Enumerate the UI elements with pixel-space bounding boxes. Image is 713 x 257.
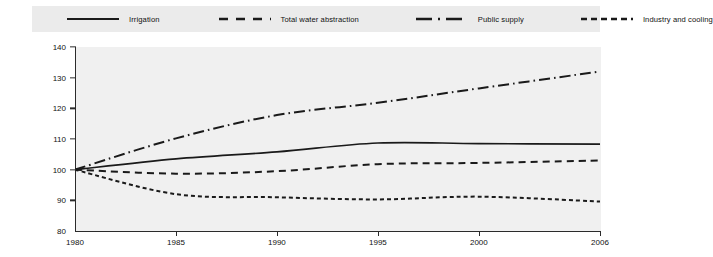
dashdot-line-swatch (415, 14, 469, 24)
y-axis-tick-mark (70, 46, 76, 47)
y-axis-tick-mark (70, 138, 76, 139)
x-axis-tick-mark (600, 231, 601, 236)
y-axis-tick-mark (70, 200, 76, 201)
x-axis-tick-label: 1985 (167, 238, 185, 247)
y-axis-tick-label: 90 (38, 196, 66, 205)
legend-label-public-supply: Public supply (478, 15, 524, 24)
series-line-industry-and-cooling (75, 170, 600, 202)
plot-lines (75, 47, 600, 231)
y-axis-tick-label: 120 (38, 104, 66, 113)
finedash-line-swatch (580, 14, 634, 24)
x-axis-tick-label: 1995 (369, 238, 387, 247)
legend-label-total-water-abstraction: Total water abstraction (281, 15, 359, 24)
x-axis-tick-label: 1980 (66, 238, 84, 247)
y-axis-tick-mark (70, 169, 76, 170)
x-axis-tick-mark (277, 231, 278, 236)
legend-item-irrigation: Irrigation (66, 6, 160, 32)
series-line-total-water-abstraction (75, 160, 600, 173)
series-line-public-supply (75, 72, 600, 170)
y-axis-tick-label: 130 (38, 73, 66, 82)
y-axis-tick-mark (70, 108, 76, 109)
y-axis-tick-label: 110 (38, 135, 66, 144)
dashed-line-swatch (218, 14, 272, 24)
x-axis-tick-label: 2006 (591, 238, 609, 247)
legend-item-total-water-abstraction: Total water abstraction (218, 6, 359, 32)
legend-label-industry-and-cooling: Industry and cooling (643, 15, 713, 24)
legend-item-public-supply: Public supply (415, 6, 524, 32)
y-axis-tick-label: 80 (38, 227, 66, 236)
y-axis-tick-mark (70, 77, 76, 78)
y-axis-tick-label: 140 (38, 43, 66, 52)
series-line-irrigation (75, 142, 600, 169)
legend-item-industry-and-cooling: Industry and cooling (580, 6, 713, 32)
chart-legend: Irrigation Total water abstraction Publi… (32, 6, 600, 32)
x-axis-tick-label: 1990 (268, 238, 286, 247)
legend-label-irrigation: Irrigation (129, 15, 160, 24)
solid-line-swatch (66, 14, 120, 24)
y-axis-tick-label: 100 (38, 165, 66, 174)
x-axis-tick-mark (479, 231, 480, 236)
x-axis-tick-label: 2000 (470, 238, 488, 247)
x-axis-tick-mark (176, 231, 177, 236)
x-axis-tick-mark (378, 231, 379, 236)
